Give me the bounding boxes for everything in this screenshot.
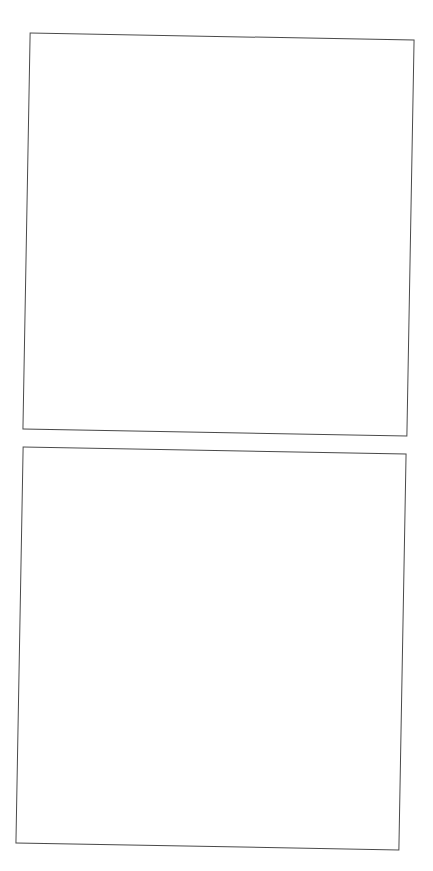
clipped-heading-fragment: [126, 0, 176, 3]
document-page: [0, 0, 433, 871]
drawing-frame-top: [22, 32, 414, 436]
drawing-frame-bottom: [15, 446, 406, 850]
frame-top-content: [23, 33, 413, 435]
frame-bottom-content: [16, 447, 405, 849]
